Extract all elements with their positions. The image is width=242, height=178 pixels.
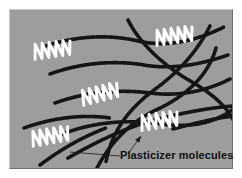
polymer-plasticizer-diagram <box>10 10 233 169</box>
diagram-panel <box>9 9 233 169</box>
polymer-chain <box>50 55 228 74</box>
figure-root: Plasticizer molecules <box>0 0 242 178</box>
plasticizer-molecules-label: Plasticizer molecules <box>120 149 233 161</box>
plasticizer-molecules-group <box>31 25 194 146</box>
plasticizer-molecule <box>31 125 70 146</box>
leader-arrowhead <box>135 134 143 142</box>
polymer-chain <box>173 116 233 129</box>
plasticizer-coil <box>31 125 70 146</box>
